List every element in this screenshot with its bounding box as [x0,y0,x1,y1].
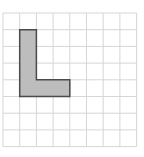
grid-diagram [0,0,144,157]
